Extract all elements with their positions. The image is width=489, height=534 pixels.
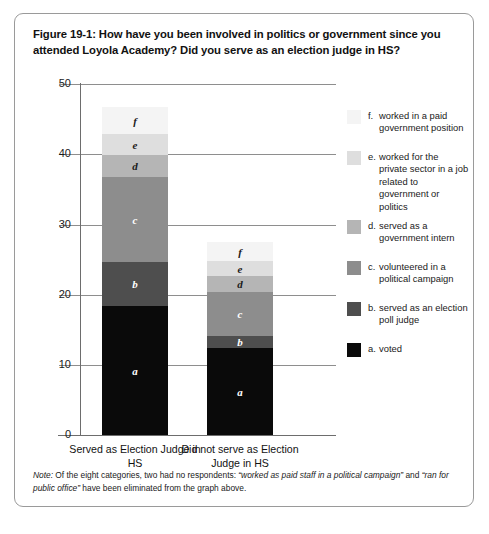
bar-segment-e[interactable]: e: [102, 134, 168, 155]
figure-frame: Figure 19-1: How have you been involved …: [14, 13, 474, 507]
gridline-10: [59, 365, 336, 366]
legend-item-c[interactable]: c. volunteered in a political campaign: [347, 261, 469, 286]
bar-segment-label-e: e: [238, 263, 243, 275]
legend-swatch-c-icon: [347, 261, 361, 275]
note-part-2: and: [403, 470, 422, 480]
legend-swatch-f-icon: [347, 110, 361, 124]
bar-did-not-serve-as-election-judge[interactable]: f e d c b a: [207, 242, 273, 435]
legend-key-a: a.: [368, 343, 377, 354]
y-axis-line: [80, 83, 81, 436]
x-axis-line: [58, 435, 336, 436]
bar-segment-label-b: b: [237, 336, 243, 348]
legend-item-b[interactable]: b. served as an election poll judge: [347, 302, 469, 327]
bar-segment-label-c: c: [238, 308, 243, 320]
bar-segment-label-d: d: [237, 278, 243, 290]
y-tick-label-0: 0: [37, 428, 71, 440]
bar-segment-label-b: b: [132, 278, 138, 290]
legend-swatch-e-icon: [347, 151, 361, 165]
legend-key-e: e.: [368, 151, 377, 162]
bar-segment-label-e: e: [133, 139, 138, 151]
figure-note: Note: Of the eight categories, two had n…: [33, 469, 459, 494]
legend-key-f: f.: [368, 110, 377, 121]
bar-segment-label-f: f: [133, 115, 137, 127]
legend-label-a: voted: [379, 343, 402, 355]
legend-label-f: worked in a paid government position: [379, 110, 469, 135]
legend-swatch-d-icon: [347, 220, 361, 234]
legend-label-e: worked for the private sector in a job r…: [379, 151, 469, 213]
bar-segment-label-d: d: [132, 160, 138, 172]
bar-segment-label-c: c: [133, 214, 138, 226]
bar-segment-b[interactable]: b: [102, 262, 168, 306]
bar-segment-f[interactable]: f: [102, 107, 168, 134]
y-tick-label-20: 20: [37, 288, 71, 300]
legend-key-c: c.: [368, 261, 377, 272]
bar-segment-c[interactable]: c: [207, 292, 273, 336]
bar-segment-a[interactable]: a: [207, 348, 273, 435]
legend-swatch-b-icon: [347, 302, 361, 316]
chart-plot: 50 40 30 20 10 0 f e d c b a: [15, 14, 475, 508]
bar-segment-c[interactable]: c: [102, 177, 168, 262]
bar-served-as-election-judge[interactable]: f e d c b a: [102, 107, 168, 435]
legend-key-b: b.: [368, 302, 377, 313]
bar-segment-a[interactable]: a: [102, 306, 168, 435]
legend-item-a[interactable]: a. voted: [347, 343, 469, 357]
note-part-1: Of the eight categories, two had no resp…: [53, 470, 238, 480]
legend-label-c: volunteered in a political campaign: [379, 261, 469, 286]
bar-segment-label-a: a: [132, 365, 138, 377]
bar-segment-d[interactable]: d: [207, 276, 273, 292]
y-tick-label-50: 50: [37, 77, 71, 89]
gridline-20: [59, 295, 336, 296]
bar-segment-label-a: a: [237, 386, 243, 398]
gridline-50: [59, 84, 336, 85]
x-tick-label-did-not-serve: Did not serve as Election Judge in HS: [170, 442, 310, 471]
legend-item-d[interactable]: d. served as a government intern: [347, 220, 469, 245]
note-quote-1: “worked as paid staff in a political cam…: [238, 470, 403, 480]
legend-swatch-a-icon: [347, 343, 361, 357]
legend-label-d: served as a government intern: [379, 220, 469, 245]
legend-item-f[interactable]: f. worked in a paid government position: [347, 110, 469, 135]
legend-item-e[interactable]: e. worked for the private sector in a jo…: [347, 151, 469, 213]
bar-segment-f[interactable]: f: [207, 242, 273, 261]
legend-key-d: d.: [368, 220, 377, 231]
gridline-40: [59, 154, 336, 155]
bar-segment-e[interactable]: e: [207, 261, 273, 276]
bar-segment-d[interactable]: d: [102, 155, 168, 177]
y-tick-label-30: 30: [37, 218, 71, 230]
bar-segment-b[interactable]: b: [207, 336, 273, 348]
y-tick-label-10: 10: [37, 358, 71, 370]
note-lead: Note:: [33, 470, 53, 480]
legend-label-b: served as an election poll judge: [379, 302, 469, 327]
bar-segment-label-f: f: [238, 246, 242, 258]
note-part-3: have been eliminated from the graph abov…: [80, 483, 246, 493]
y-tick-label-40: 40: [37, 147, 71, 159]
gridline-30: [59, 225, 336, 226]
